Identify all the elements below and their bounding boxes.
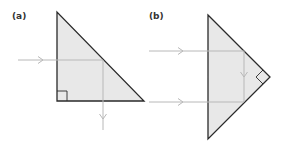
panel-b-label: (b) — [149, 11, 164, 21]
prism-diagram: (a) (b) — [0, 0, 286, 144]
prism-a — [57, 12, 144, 101]
panel-a-label: (a) — [12, 11, 26, 21]
prism-b — [208, 15, 270, 139]
panel-a: (a) — [12, 11, 144, 130]
panel-b: (b) — [149, 11, 270, 139]
